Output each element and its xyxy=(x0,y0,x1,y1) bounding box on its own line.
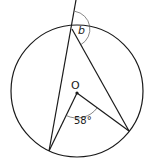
radius-to-bottom-left xyxy=(49,93,77,151)
circle-theorem-diagram: O 58° b xyxy=(0,0,150,161)
center-label: O xyxy=(71,79,80,92)
angle-b-label: b xyxy=(78,24,85,37)
extended-chord-line xyxy=(49,0,76,151)
angle-58-label: 58° xyxy=(74,115,92,126)
